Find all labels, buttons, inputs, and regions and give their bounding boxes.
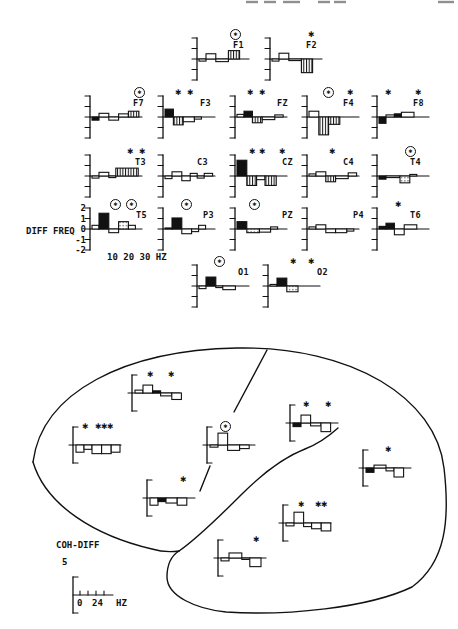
bar xyxy=(304,523,312,527)
bar xyxy=(379,226,386,229)
bar xyxy=(192,229,199,232)
bar xyxy=(194,117,201,119)
circled-asterisk-mark: ✱ xyxy=(220,421,231,432)
asterisk-mark: ✱ xyxy=(279,146,285,156)
bar xyxy=(99,213,109,229)
electrode-label-P4: P4 xyxy=(353,210,364,220)
asterisk-mark: ✱ xyxy=(303,399,309,409)
bar xyxy=(204,173,212,176)
bar xyxy=(92,225,99,229)
circled-asterisk-mark: ✱ xyxy=(230,29,241,40)
freq-axis-ticks-label: 10 20 30 HZ xyxy=(107,252,167,262)
coh-diff-label: COH-DIFF xyxy=(56,540,99,550)
bar xyxy=(229,553,242,558)
bar xyxy=(386,468,394,471)
asterisk-mark: ✱ xyxy=(147,369,153,379)
bar xyxy=(177,498,187,505)
diff-freq-ytick--1: -1 xyxy=(62,235,86,245)
bar xyxy=(99,113,109,117)
asterisk-mark: ✱ xyxy=(290,256,296,266)
electrode-label-O2: O2 xyxy=(317,267,328,277)
electrode-label-PZ: PZ xyxy=(282,210,293,220)
electrode-label-T5: T5 xyxy=(136,210,147,220)
bar xyxy=(326,176,336,182)
chart-PZ xyxy=(230,208,287,250)
electrode-label-C3: C3 xyxy=(197,157,208,167)
bar xyxy=(242,558,250,559)
bar xyxy=(92,445,102,454)
chart-coh-center xyxy=(203,427,255,463)
bar xyxy=(386,115,394,117)
bar xyxy=(379,117,386,123)
coh-xtick-24: 24 xyxy=(92,598,103,608)
asterisk-mark: ✱ xyxy=(395,199,401,209)
bar xyxy=(312,523,322,529)
chart-coh-right xyxy=(359,450,411,486)
bar xyxy=(286,523,294,526)
bar xyxy=(109,117,119,120)
bar xyxy=(119,222,129,229)
asterisk-mark: ✱ xyxy=(253,534,259,544)
asterisk-mark: ✱ xyxy=(127,146,133,156)
bar xyxy=(228,445,240,450)
asterisk-mark: ✱ xyxy=(249,146,255,156)
bar xyxy=(293,423,301,427)
bar xyxy=(279,53,289,59)
bar xyxy=(262,117,275,120)
bar xyxy=(394,229,404,235)
bar xyxy=(216,286,223,288)
circled-asterisk-mark: ✱ xyxy=(323,87,334,98)
coh-xtick-0: 0 xyxy=(77,598,82,608)
bar xyxy=(309,174,316,176)
bar xyxy=(102,445,112,454)
bar xyxy=(218,433,228,445)
asterisk-mark: ✱ xyxy=(308,256,314,266)
bar xyxy=(183,117,194,122)
circled-asterisk-mark: ✱ xyxy=(405,146,416,157)
bar xyxy=(150,498,158,505)
electrode-label-T4: T4 xyxy=(410,157,421,167)
asterisk-mark: ✱ xyxy=(385,87,391,97)
bar xyxy=(394,468,404,477)
chart-CZ xyxy=(230,155,287,197)
bar xyxy=(111,445,120,452)
electrode-label-C4: C4 xyxy=(343,157,354,167)
bar xyxy=(76,445,84,452)
bar xyxy=(309,227,316,229)
chart-coh-bottom xyxy=(214,540,266,576)
bar xyxy=(92,176,99,178)
bar xyxy=(259,229,270,232)
electrode-label-FZ: FZ xyxy=(277,98,288,108)
bar xyxy=(92,117,99,120)
bar xyxy=(182,229,192,234)
circled-asterisk-mark: ✱ xyxy=(134,87,145,98)
bar xyxy=(237,114,244,117)
bar xyxy=(165,228,172,229)
bar xyxy=(199,225,206,229)
circled-asterisk-mark: ✱ xyxy=(110,199,121,210)
asterisk-mark: ✱ xyxy=(347,87,353,97)
bar xyxy=(244,111,252,117)
bar xyxy=(386,176,400,178)
asterisk-mark: ✱ xyxy=(168,369,174,379)
bar xyxy=(161,393,172,396)
bar xyxy=(165,176,172,179)
bar xyxy=(311,423,321,426)
bar xyxy=(84,445,92,449)
asterisk-mark: ✱ xyxy=(187,87,193,97)
bar xyxy=(386,223,394,229)
bar xyxy=(272,59,279,61)
bar xyxy=(347,229,354,231)
bar xyxy=(394,114,401,117)
scanned-figure-canvas: F1✱F2✱F7✱F3✱✱FZ✱✱F4✱✱F8✱✱T3✱✱C3CZ✱✱✱C4✱T… xyxy=(0,0,458,629)
electrode-label-CZ: CZ xyxy=(282,157,293,167)
circled-asterisk-mark: ✱ xyxy=(181,199,192,210)
bar xyxy=(119,114,129,117)
chart-P4 xyxy=(302,208,359,250)
bar xyxy=(270,284,277,286)
bar xyxy=(329,117,340,124)
asterisk-mark: ✱ xyxy=(107,421,113,431)
bar xyxy=(301,415,311,423)
asterisk-mark: ✱ xyxy=(259,87,265,97)
bar xyxy=(316,225,326,229)
